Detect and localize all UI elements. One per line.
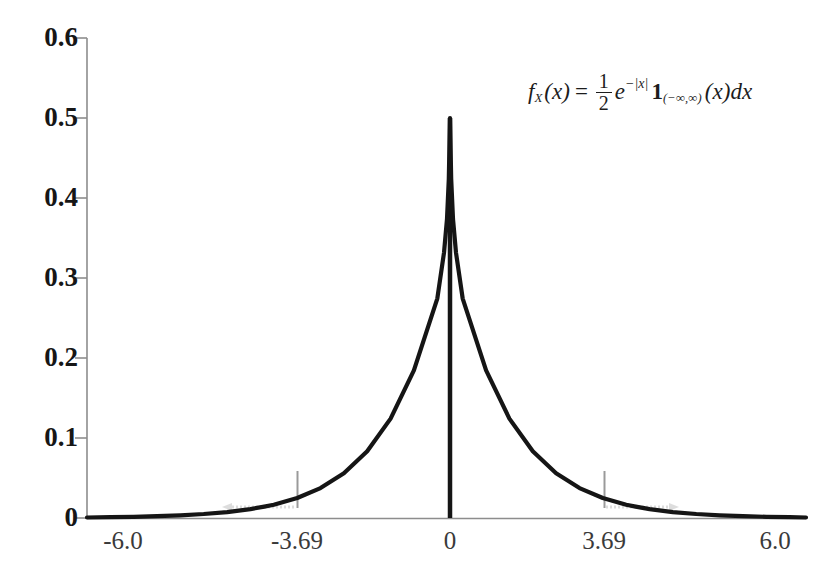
formula-f-subscript: X — [534, 90, 542, 106]
formula-exp-power: −|x| — [625, 76, 648, 92]
formula-exp-base: e — [615, 79, 625, 105]
y-tick-label-6: 0 — [6, 504, 78, 531]
formula-indicator-subscript: (−∞,∞) — [663, 91, 702, 106]
chart-figure: 0.6 0.5 0.4 0.3 0.2 0.1 0 -6.0 -3.69 0 3… — [0, 0, 832, 580]
x-tick-label-3: 3.69 — [544, 528, 664, 553]
density-formula-annotation: fX(x) = 1 2 e−|x| 1(−∞,∞) (x)dx — [528, 70, 818, 132]
y-tick-label-1: 0.5 — [6, 104, 78, 131]
x-tick-label-1: -3.69 — [237, 528, 357, 553]
formula-fraction-denominator: 2 — [596, 92, 612, 114]
y-tick-label-0: 0.6 — [6, 24, 78, 51]
y-tick-label-2: 0.4 — [6, 184, 78, 211]
y-tick-label-5: 0.1 — [6, 424, 78, 451]
formula-equals: = — [575, 79, 588, 105]
formula-indicator: 1 — [651, 79, 663, 105]
x-tick-label-2: 0 — [390, 528, 510, 553]
laplace-density-curve — [87, 118, 806, 518]
formula-fraction: 1 2 — [596, 71, 612, 114]
formula-tail: (x)dx — [705, 79, 752, 105]
formula-fraction-numerator: 1 — [596, 71, 612, 92]
x-tick-label-4: 6.0 — [715, 528, 832, 553]
x-tick-label-0: -6.0 — [63, 528, 183, 553]
y-tick-label-3: 0.3 — [6, 264, 78, 291]
y-tick-label-4: 0.2 — [6, 344, 78, 371]
formula-of-x: (x) — [544, 79, 570, 105]
